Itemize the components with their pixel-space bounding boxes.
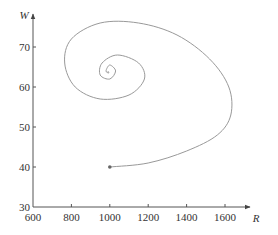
x-tick-label: 1400 [176, 211, 199, 223]
y-tick-label: 60 [19, 81, 31, 93]
start-point [108, 165, 112, 169]
chart-svg: R W 6008001000120014001600 3040506070 [0, 0, 278, 235]
y-tick-label: 50 [19, 121, 31, 133]
y-axis-label: W [19, 9, 29, 21]
axes: R W [19, 9, 259, 224]
x-axis-label: R [252, 212, 260, 224]
x-tick-label: 800 [63, 211, 80, 223]
trajectory-curve [65, 21, 232, 167]
x-tick-label: 1000 [99, 211, 122, 223]
y-tick-label: 40 [19, 161, 31, 173]
x-tick-label: 1600 [214, 211, 237, 223]
phase-plane-chart: R W 6008001000120014001600 3040506070 [0, 0, 278, 235]
y-tick-label: 70 [19, 41, 31, 53]
x-tick-label: 1200 [137, 211, 160, 223]
y-tick-label: 30 [19, 201, 31, 213]
